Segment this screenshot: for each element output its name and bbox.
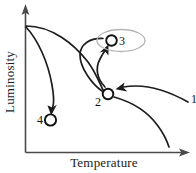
post-state2-track — [114, 97, 169, 147]
figure-container: 3 2 4 1 Temperature Luminosity — [0, 0, 196, 173]
arrow-to-state4 — [26, 27, 57, 116]
x-axis-title: Temperature — [70, 155, 138, 170]
state-label-2: 2 — [95, 95, 101, 109]
state-label-1: 1 — [191, 92, 196, 106]
state-circle-4[interactable] — [45, 114, 56, 125]
state-label-4: 4 — [37, 113, 43, 127]
state-circle-3[interactable] — [106, 35, 117, 46]
state-circle-2[interactable] — [103, 89, 114, 100]
track-curve-descending-right — [114, 97, 169, 147]
y-axis-title: Luminosity — [2, 51, 17, 113]
state-label-3: 3 — [119, 34, 125, 48]
arrow-curve-1-to-2 — [124, 86, 189, 102]
arrow-state1-to-state2 — [116, 82, 189, 102]
axes-group — [22, 4, 190, 156]
arrow-curve-to-4 — [26, 27, 54, 108]
diagram-canvas: 3 2 4 1 Temperature Luminosity — [0, 0, 196, 173]
